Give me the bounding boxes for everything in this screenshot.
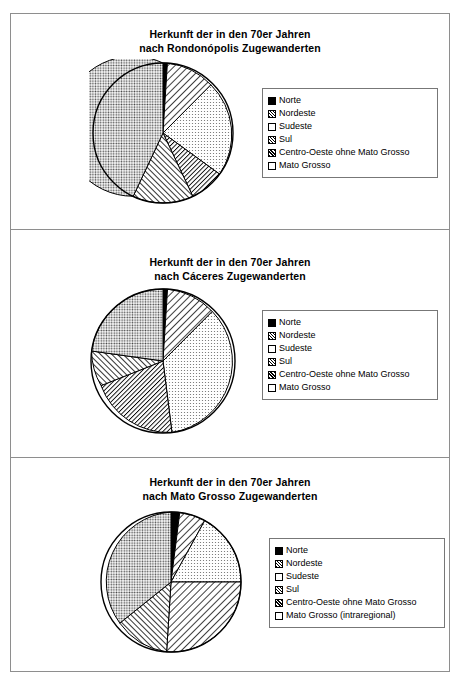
legend-item-nordeste[interactable]: Nordeste — [268, 329, 431, 342]
pie-slice-mato-grosso — [92, 289, 163, 361]
page-title: Herkunft der in den 70er Jahren nach Các… — [11, 255, 449, 283]
legend-item-centro-oeste[interactable]: Centro-Oeste ohne Mato Grosso — [268, 146, 431, 159]
chart-panel-mato-grosso: Herkunft der in den 70er Jahren nach Mat… — [11, 457, 449, 673]
legend-swatch-sul-icon — [268, 136, 276, 144]
chart-title-line-2: nach Mato Grosso Zugewanderten — [11, 489, 449, 503]
legend-item-sudeste[interactable]: Sudeste — [268, 120, 431, 133]
legend-item-centro-oeste[interactable]: Centro-Oeste ohne Mato Grosso — [275, 596, 438, 609]
legend-label-nordeste: Nordeste — [279, 330, 316, 341]
legend-rondonopolis: Norte Nordeste Sudeste Sul Centro-Oeste … — [262, 88, 438, 178]
pie-chart-mato-grosso — [97, 508, 245, 656]
document-frame: Herkunft der in den 70er Jahren nach Ron… — [10, 13, 450, 672]
legend-mato-grosso: Norte Nordeste Sudeste Sul Centro-Oeste … — [269, 538, 445, 628]
pie-svg — [87, 285, 239, 437]
legend-label-norte: Norte — [279, 95, 301, 106]
legend-swatch-centro-oeste-icon — [268, 149, 276, 157]
page-title: Herkunft der in den 70er Jahren nach Mat… — [11, 475, 449, 503]
legend-swatch-mato-grosso-icon — [268, 162, 276, 170]
legend-item-sudeste[interactable]: Sudeste — [268, 342, 431, 355]
chart-title-line-2: nach Rondonópolis Zugewanderten — [11, 41, 449, 55]
legend-label-nordeste: Nordeste — [286, 558, 323, 569]
legend-swatch-nordeste-icon — [275, 560, 283, 568]
legend-item-sul[interactable]: Sul — [268, 133, 431, 146]
legend-label-centro-oeste: Centro-Oeste ohne Mato Grosso — [279, 147, 410, 158]
legend-label-sudeste: Sudeste — [286, 571, 319, 582]
chart-title-line-2: nach Cáceres Zugewanderten — [11, 269, 449, 283]
legend-label-sul: Sul — [279, 134, 292, 145]
legend-label-mato-grosso: Mato Grosso (intraregional) — [286, 610, 396, 621]
legend-caceres: Norte Nordeste Sudeste Sul Centro-Oeste … — [262, 310, 438, 400]
legend-swatch-centro-oeste-icon — [275, 599, 283, 607]
chart-panel-caceres: Herkunft der in den 70er Jahren nach Các… — [11, 229, 449, 457]
legend-swatch-sul-icon — [268, 358, 276, 366]
legend-label-mato-grosso: Mato Grosso — [279, 160, 331, 171]
legend-item-sul[interactable]: Sul — [275, 583, 438, 596]
legend-label-sul: Sul — [286, 584, 299, 595]
legend-label-centro-oeste: Centro-Oeste ohne Mato Grosso — [286, 597, 417, 608]
legend-item-mato-grosso[interactable]: Mato Grosso (intraregional) — [275, 609, 438, 622]
legend-label-sudeste: Sudeste — [279, 343, 312, 354]
legend-swatch-sul-icon — [275, 586, 283, 594]
legend-label-sudeste: Sudeste — [279, 121, 312, 132]
legend-label-sul: Sul — [279, 356, 292, 367]
legend-swatch-mato-grosso-icon — [268, 384, 276, 392]
legend-swatch-norte-icon — [268, 97, 276, 105]
legend-swatch-nordeste-icon — [268, 110, 276, 118]
legend-item-mato-grosso[interactable]: Mato Grosso — [268, 381, 431, 394]
page-title: Herkunft der in den 70er Jahren nach Ron… — [11, 27, 449, 55]
legend-swatch-sudeste-icon — [268, 123, 276, 131]
pie-svg — [89, 59, 237, 207]
legend-label-norte: Norte — [286, 545, 308, 556]
pie-svg — [97, 508, 245, 656]
chart-panel-rondonopolis: Herkunft der in den 70er Jahren nach Ron… — [11, 14, 449, 229]
chart-title-line-1: Herkunft der in den 70er Jahren — [11, 27, 449, 41]
legend-swatch-nordeste-icon — [268, 332, 276, 340]
legend-item-mato-grosso[interactable]: Mato Grosso — [268, 159, 431, 172]
legend-item-sul[interactable]: Sul — [268, 355, 431, 368]
pie-chart-rondonopolis — [89, 59, 237, 207]
legend-item-nordeste[interactable]: Nordeste — [275, 557, 438, 570]
legend-item-norte[interactable]: Norte — [275, 544, 438, 557]
legend-item-norte[interactable]: Norte — [268, 316, 431, 329]
legend-label-norte: Norte — [279, 317, 301, 328]
legend-swatch-sudeste-icon — [275, 573, 283, 581]
chart-title-line-1: Herkunft der in den 70er Jahren — [11, 255, 449, 269]
legend-swatch-mato-grosso-icon — [275, 612, 283, 620]
legend-item-nordeste[interactable]: Nordeste — [268, 107, 431, 120]
legend-item-centro-oeste[interactable]: Centro-Oeste ohne Mato Grosso — [268, 368, 431, 381]
legend-item-sudeste[interactable]: Sudeste — [275, 570, 438, 583]
legend-swatch-norte-icon — [268, 319, 276, 327]
pie-chart-caceres — [87, 285, 239, 437]
legend-label-centro-oeste: Centro-Oeste ohne Mato Grosso — [279, 369, 410, 380]
legend-label-mato-grosso: Mato Grosso — [279, 382, 331, 393]
chart-title-line-1: Herkunft der in den 70er Jahren — [11, 475, 449, 489]
legend-swatch-centro-oeste-icon — [268, 371, 276, 379]
pie-slice-sul — [167, 582, 241, 652]
legend-item-norte[interactable]: Norte — [268, 94, 431, 107]
legend-swatch-norte-icon — [275, 547, 283, 555]
legend-label-nordeste: Nordeste — [279, 108, 316, 119]
legend-swatch-sudeste-icon — [268, 345, 276, 353]
